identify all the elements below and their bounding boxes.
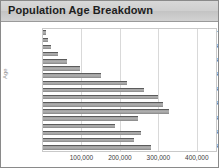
plot-area: [42, 28, 217, 152]
bar-70-74[interactable]: [43, 45, 51, 49]
bar-series: [43, 29, 216, 151]
bar-45-49[interactable]: [43, 81, 127, 85]
bar-5-9[interactable]: [43, 138, 134, 142]
bar-row: [43, 45, 216, 49]
bar-row: [43, 102, 216, 106]
bar-row: [43, 145, 216, 149]
bar-row: [43, 131, 216, 135]
bar-row: [43, 109, 216, 113]
chart-title: Population Age Breakdown: [8, 4, 153, 16]
x-tick-100000: 100,000: [70, 154, 94, 161]
bar-row: [43, 116, 216, 120]
bar-row: [43, 66, 216, 70]
bar-row: [43, 124, 216, 128]
bar-row: [43, 81, 216, 85]
bar-55-59[interactable]: [43, 66, 80, 70]
x-tick-200000: 200,000: [108, 154, 132, 161]
bar-75-79[interactable]: [43, 38, 48, 42]
bar-50-54[interactable]: [43, 73, 101, 77]
bar-20-24[interactable]: [43, 116, 138, 120]
x-tick-300000: 300,000: [147, 154, 171, 161]
bar-80+[interactable]: [43, 30, 46, 34]
bar-30-34[interactable]: [43, 102, 163, 106]
bar-15-19[interactable]: [43, 124, 115, 128]
bar-40-44[interactable]: [43, 88, 144, 92]
bar-row: [43, 73, 216, 77]
bar-row: [43, 138, 216, 142]
y-axis-title: Age: [2, 68, 8, 79]
chart-title-band: Population Age Breakdown: [1, 1, 219, 22]
bar-60-64[interactable]: [43, 59, 67, 63]
bar-row: [43, 30, 216, 34]
bar-row: [43, 95, 216, 99]
bar-row: [43, 88, 216, 92]
bar-row: [43, 59, 216, 63]
bar-65-69[interactable]: [43, 52, 58, 56]
bar-35-39[interactable]: [43, 95, 158, 99]
bar-0-4[interactable]: [43, 145, 151, 149]
bar-row: [43, 52, 216, 56]
chart-card: Population Age Breakdown Age 80+70-7460-…: [0, 0, 219, 168]
bar-10-14[interactable]: [43, 131, 141, 135]
bar-row: [43, 38, 216, 42]
bar-25-29[interactable]: [43, 109, 169, 113]
x-tick-400000: 400,000: [185, 154, 209, 161]
